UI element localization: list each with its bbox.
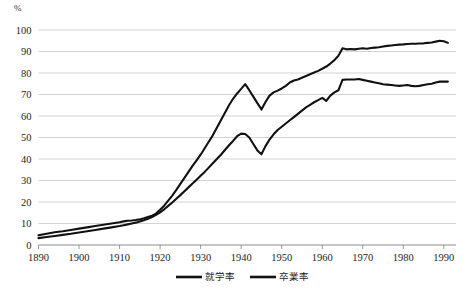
x-axis-tick-label: 1980: [393, 252, 414, 263]
data-series: [39, 41, 448, 238]
y-axis-tick-label: 100: [16, 25, 32, 36]
x-axis-tick-labels: 1890190019101920193019401950196019701980…: [28, 252, 454, 263]
x-axis-tick-label: 1960: [312, 252, 333, 263]
x-axis-tick-label: 1940: [231, 252, 252, 263]
y-axis-tick-label: 40: [21, 154, 32, 165]
x-axis-tick-label: 1990: [433, 252, 454, 263]
x-axis-tick-label: 1950: [271, 252, 292, 263]
y-axis-tick-labels: 0102030405060708090100: [16, 25, 32, 251]
y-axis-tick-label: 60: [21, 111, 32, 122]
legend-label-1: 就学率: [205, 271, 235, 282]
y-axis-tick-label: 50: [21, 132, 32, 143]
chart-legend: 就学率卒業率: [176, 271, 309, 282]
y-axis-tick-label: 70: [21, 89, 32, 100]
legend-label-2: 卒業率: [279, 271, 309, 282]
x-axis-tick-label: 1910: [109, 252, 130, 263]
x-axis-tick-label: 1970: [352, 252, 373, 263]
x-axis-tick-label: 1930: [190, 252, 211, 263]
series-line-1: [39, 41, 448, 236]
y-axis-tick-label: 10: [21, 218, 32, 229]
gridlines: [39, 30, 457, 224]
x-axis-tick-label: 1900: [69, 252, 90, 263]
line-chart: 0102030405060708090100 18901900191019201…: [0, 0, 468, 289]
x-axis-tick-label: 1890: [28, 252, 49, 263]
x-axis: [39, 245, 457, 249]
y-axis-tick-label: 20: [21, 197, 32, 208]
y-axis-tick-label: 90: [21, 46, 32, 57]
y-axis-tick-label: 30: [21, 175, 32, 186]
chart-container: % 0102030405060708090100 189019001910192…: [0, 0, 468, 289]
x-axis-tick-label: 1920: [150, 252, 171, 263]
y-axis-tick-label: 0: [26, 240, 31, 251]
series-line-2: [39, 79, 448, 238]
y-axis-tick-label: 80: [21, 68, 32, 79]
